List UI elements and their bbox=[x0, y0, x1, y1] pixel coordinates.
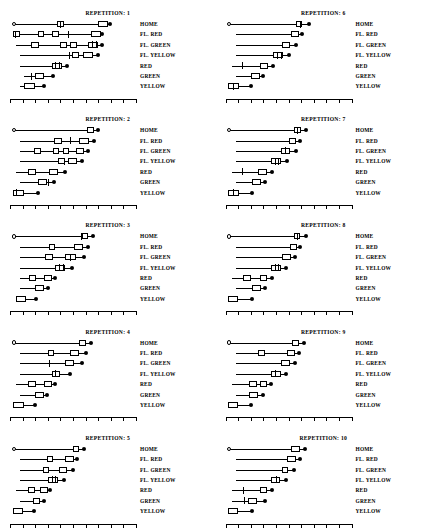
repetition-panel: REPETITION: 9HOMEFL. REDFL. GREENFL. YEL… bbox=[216, 327, 431, 433]
event-box-marker bbox=[70, 350, 79, 356]
row-label: HOME bbox=[140, 338, 158, 348]
x-axis-tick bbox=[238, 524, 239, 528]
event-box-marker bbox=[35, 285, 44, 291]
event-box-marker bbox=[228, 296, 238, 302]
end-dot-marker bbox=[261, 74, 265, 78]
x-axis-tick bbox=[276, 311, 277, 315]
event-tick-marker bbox=[297, 127, 298, 134]
timeline-row: FL. RED bbox=[0, 454, 216, 464]
event-box-marker bbox=[70, 42, 76, 48]
event-tick-marker bbox=[48, 179, 49, 186]
x-axis-tick bbox=[251, 524, 252, 528]
x-axis-tick bbox=[23, 417, 24, 421]
row-label: GREEN bbox=[356, 71, 376, 81]
timeline-row: RED bbox=[0, 379, 216, 389]
timeline-row: RED bbox=[0, 485, 216, 495]
event-tick-marker bbox=[49, 360, 50, 367]
row-label: RED bbox=[140, 379, 152, 389]
row-label: HOME bbox=[140, 125, 158, 135]
end-dot-marker bbox=[285, 159, 289, 163]
x-axis bbox=[0, 417, 216, 423]
event-box-marker bbox=[28, 487, 36, 493]
x-axis bbox=[0, 311, 216, 317]
x-axis-tick bbox=[352, 99, 353, 103]
timeline-row: YELLOW bbox=[0, 400, 216, 410]
x-axis-tick bbox=[289, 417, 290, 421]
x-axis-tick bbox=[111, 99, 112, 103]
event-box-marker bbox=[13, 190, 24, 196]
end-dot-marker bbox=[45, 393, 49, 397]
x-axis-tick bbox=[60, 99, 61, 103]
event-box-marker bbox=[24, 83, 35, 89]
timeline-row: FL. YELLOW bbox=[0, 369, 216, 379]
start-circle-marker bbox=[227, 340, 231, 344]
event-box-marker bbox=[281, 360, 290, 366]
x-axis-tick bbox=[339, 99, 340, 103]
end-dot-marker bbox=[82, 447, 86, 451]
timeline-row: YELLOW bbox=[0, 294, 216, 304]
event-box-marker bbox=[48, 477, 58, 483]
end-dot-marker bbox=[108, 22, 112, 26]
x-axis-tick bbox=[251, 99, 252, 103]
x-axis-tick bbox=[136, 524, 137, 528]
x-axis-tick bbox=[86, 99, 87, 103]
event-box-marker bbox=[29, 275, 37, 281]
x-axis-tick bbox=[35, 524, 36, 528]
x-axis-tick bbox=[326, 417, 327, 421]
x-axis-tick bbox=[352, 311, 353, 315]
x-axis-tick bbox=[226, 524, 227, 528]
x-axis-tick bbox=[123, 524, 124, 528]
event-box-marker bbox=[13, 508, 23, 514]
x-axis-tick bbox=[86, 311, 87, 315]
timeline-row: FL. RED bbox=[216, 348, 431, 358]
event-box-marker bbox=[44, 275, 52, 281]
row-label: FL. RED bbox=[356, 242, 378, 252]
timeline-row: FL. RED bbox=[0, 29, 216, 39]
row-label: FL. YELLOW bbox=[140, 475, 176, 485]
end-dot-marker bbox=[96, 128, 100, 132]
end-dot-marker bbox=[261, 393, 265, 397]
x-axis-tick bbox=[98, 99, 99, 103]
event-box-marker bbox=[16, 296, 26, 302]
end-dot-marker bbox=[80, 159, 84, 163]
timeline-row: FL. YELLOW bbox=[0, 475, 216, 485]
row-label: FL. YELLOW bbox=[356, 263, 392, 273]
event-tick-marker bbox=[275, 370, 276, 377]
end-dot-marker bbox=[284, 372, 288, 376]
row-label: FL. GREEN bbox=[356, 252, 387, 262]
row-label: GREEN bbox=[356, 390, 376, 400]
row-label: FL. RED bbox=[140, 454, 162, 464]
end-dot-marker bbox=[46, 286, 50, 290]
repetition-panel: REPETITION: 5HOMEFL. REDFL. GREENFL. YEL… bbox=[0, 433, 216, 531]
timeline-row: FL. YELLOW bbox=[0, 50, 216, 60]
end-dot-marker bbox=[287, 53, 291, 57]
row-label: FL. GREEN bbox=[140, 252, 171, 262]
panel-title: REPETITION: 4 bbox=[0, 327, 216, 337]
start-circle-marker bbox=[227, 447, 231, 451]
row-label: YELLOW bbox=[140, 188, 165, 198]
row-label: GREEN bbox=[140, 283, 160, 293]
end-dot-marker bbox=[92, 139, 96, 143]
event-box-marker bbox=[47, 456, 53, 462]
x-axis-tick bbox=[136, 99, 137, 103]
timeline-row: FL. GREEN bbox=[216, 358, 431, 368]
x-axis-tick bbox=[314, 311, 315, 315]
x-axis-tick bbox=[48, 99, 49, 103]
x-axis bbox=[216, 205, 431, 211]
timeline-row: FL. GREEN bbox=[0, 252, 216, 262]
event-box-marker bbox=[258, 350, 264, 356]
end-dot-marker bbox=[294, 43, 298, 47]
end-dot-marker bbox=[63, 170, 67, 174]
event-box-marker bbox=[44, 381, 52, 387]
timeline-row: RED bbox=[0, 167, 216, 177]
x-axis bbox=[216, 99, 431, 105]
timeline-row: FL. RED bbox=[0, 136, 216, 146]
row-label: YELLOW bbox=[140, 81, 165, 91]
row-label: YELLOW bbox=[140, 400, 165, 410]
event-box-marker bbox=[98, 21, 108, 27]
x-axis-tick bbox=[111, 417, 112, 421]
end-dot-marker bbox=[86, 149, 90, 153]
end-dot-marker bbox=[100, 43, 104, 47]
event-tick-marker bbox=[59, 62, 60, 69]
row-label: RED bbox=[140, 273, 152, 283]
